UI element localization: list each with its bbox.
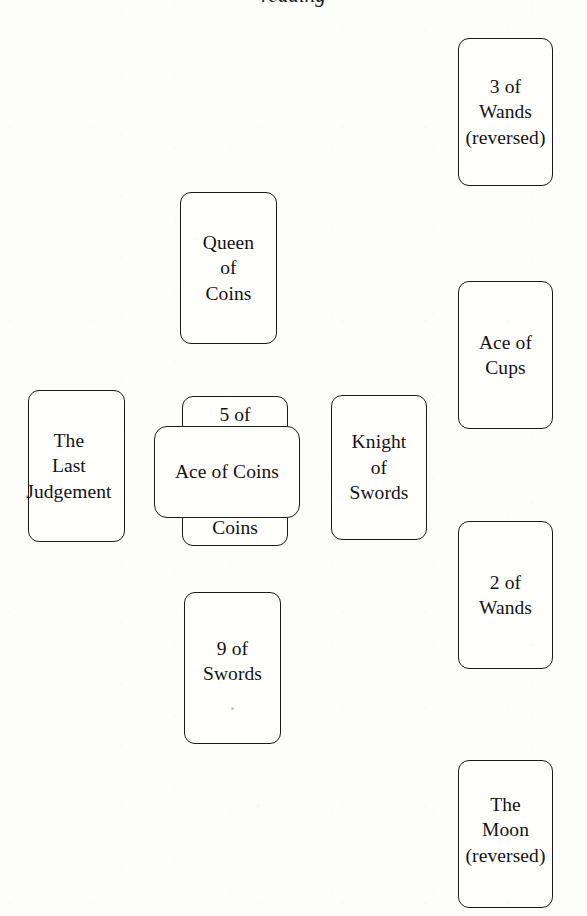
card-label: The Last Judgement	[14, 428, 124, 504]
card-label: Ace of Coins	[155, 459, 299, 484]
tarot-card-queen-of-coins[interactable]: Queen of Coins	[180, 192, 277, 344]
cropped-heading-remnant: reading	[0, 0, 587, 8]
tarot-card-ace-of-coins-crossing[interactable]: Ace of Coins	[154, 426, 300, 518]
tarot-card-9-of-swords[interactable]: 9 of Swords	[184, 592, 281, 744]
tarot-card-ace-of-cups[interactable]: Ace of Cups	[458, 281, 553, 429]
card-label: Queen of Coins	[181, 230, 276, 306]
tarot-card-knight-of-swords[interactable]: Knight of Swords	[331, 395, 427, 540]
tarot-card-the-moon-reversed[interactable]: The Moon (reversed)	[458, 760, 553, 908]
scan-artifact-speck	[231, 707, 234, 710]
card-label-top: 5 of	[183, 402, 287, 427]
tarot-card-2-of-wands[interactable]: 2 of Wands	[458, 521, 553, 669]
tarot-card-3-of-wands-reversed[interactable]: 3 of Wands (reversed)	[458, 38, 553, 186]
card-label: 2 of Wands	[459, 570, 552, 621]
card-label: Knight of Swords	[332, 429, 426, 505]
card-label: The Moon (reversed)	[459, 792, 552, 868]
tarot-card-the-last-judgement[interactable]: The Last Judgement	[28, 390, 125, 542]
card-label: 3 of Wands (reversed)	[459, 74, 552, 150]
tarot-spread-diagram: reading 3 of Wands (reversed) Ace of Cup…	[0, 0, 587, 916]
card-label: 9 of Swords	[185, 636, 280, 687]
card-label-bottom: Coins	[183, 515, 287, 540]
card-label: Ace of Cups	[459, 330, 552, 381]
